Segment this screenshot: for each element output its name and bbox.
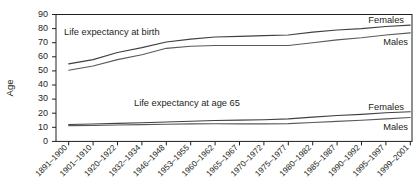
y-tick-label: 40: [38, 79, 48, 89]
y-tick-label: 50: [38, 65, 48, 75]
y-tick-label: 0: [43, 136, 48, 146]
chart-canvas: Age 90 80 70 60 50 40 30 20 10 0: [0, 0, 420, 186]
x-axis-ticks: [69, 141, 411, 145]
annotation-life-expectancy-at-birth: Life expectancy at birth: [64, 27, 160, 37]
series-line-age65-males: [69, 117, 411, 125]
y-axis-tick-labels: 90 80 70 60 50 40 30 20 10 0: [38, 9, 48, 146]
y-axis-ticks: [52, 15, 56, 142]
label-age65-females: Females: [368, 102, 404, 112]
y-tick-label: 10: [38, 122, 48, 132]
label-birth-females: Females: [368, 15, 404, 25]
annotation-life-expectancy-at-age-65: Life expectancy at age 65: [134, 98, 240, 108]
x-axis-tick-labels: 1891–1900 1901–1910 1920–1922 1932–1934 …: [34, 143, 411, 179]
y-axis-title: Age: [4, 80, 15, 97]
label-age65-males: Males: [383, 122, 408, 132]
y-tick-label: 60: [38, 51, 48, 61]
y-tick-label: 90: [38, 9, 48, 19]
y-tick-label: 70: [38, 37, 48, 47]
y-tick-label: 80: [38, 23, 48, 33]
series-group: [69, 25, 411, 126]
label-birth-males: Males: [383, 37, 408, 47]
y-tick-label: 20: [38, 108, 48, 118]
y-tick-label: 30: [38, 93, 48, 103]
life-expectancy-chart: Age 90 80 70 60 50 40 30 20 10 0: [0, 0, 420, 186]
series-line-age65-females: [69, 112, 411, 125]
